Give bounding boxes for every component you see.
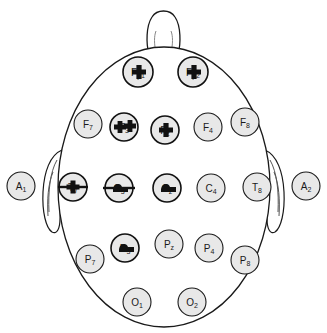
electrode-circle[interactable]: [195, 234, 223, 262]
electrode-t7[interactable]: T7: [58, 173, 88, 201]
electrode-f4[interactable]: F4: [194, 113, 222, 141]
electrode-circle[interactable]: [194, 113, 222, 141]
electrode-o1[interactable]: O1: [123, 288, 151, 316]
electrode-p4[interactable]: P4: [195, 234, 223, 262]
electrode-p3[interactable]: P3: [111, 234, 139, 262]
electrode-circle[interactable]: [74, 110, 102, 138]
electrode-c4[interactable]: C4: [197, 174, 225, 202]
electrode-a2[interactable]: A2: [292, 172, 320, 200]
electrode-pz[interactable]: Pz: [155, 230, 183, 258]
electrode-circle[interactable]: [231, 246, 259, 274]
electrode-circle[interactable]: [231, 108, 259, 136]
eeg-electrode-diagram: Fp1Fp2F7F3FzF4F8A1T7C3CzC4T8A2P7P3PzP4P8…: [0, 0, 327, 333]
electrode-circle[interactable]: [7, 172, 35, 200]
electrode-circle[interactable]: [178, 288, 206, 316]
electrode-fz[interactable]: Fz: [151, 116, 179, 144]
electrode-fp2[interactable]: Fp2: [178, 57, 208, 87]
electrode-t8[interactable]: T8: [243, 173, 271, 201]
electrode-a1[interactable]: A1: [7, 172, 35, 200]
electrode-f8[interactable]: F8: [231, 108, 259, 136]
electrode-o2[interactable]: O2: [178, 288, 206, 316]
electrode-circle[interactable]: [123, 288, 151, 316]
electrode-fp1[interactable]: Fp1: [123, 57, 153, 87]
electrode-circle[interactable]: [243, 173, 271, 201]
electrode-circle[interactable]: [155, 230, 183, 258]
electrode-circle[interactable]: [197, 174, 225, 202]
electrode-f7[interactable]: F7: [74, 110, 102, 138]
electrode-p8[interactable]: P8: [231, 246, 259, 274]
electrode-cz[interactable]: Cz: [153, 174, 181, 202]
electrode-circle[interactable]: [76, 245, 104, 273]
electrode-p7[interactable]: P7: [76, 245, 104, 273]
electrode-f3[interactable]: F3: [110, 113, 138, 141]
electrode-circle[interactable]: [292, 172, 320, 200]
